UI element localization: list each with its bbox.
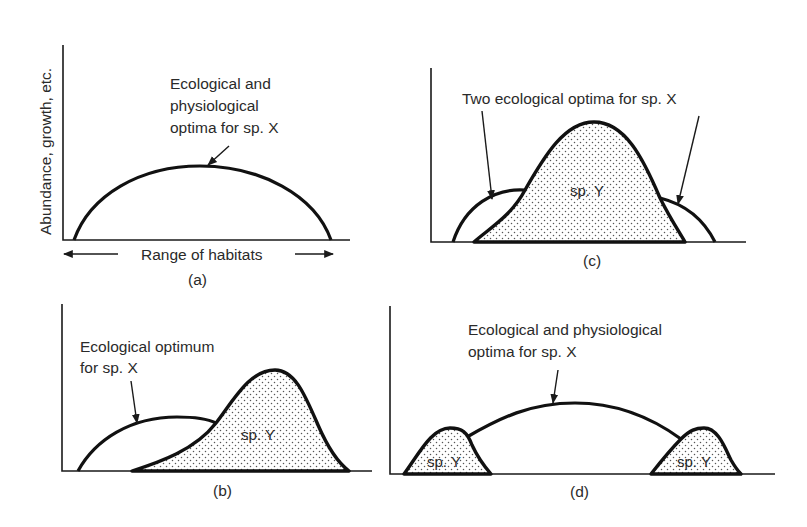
panel-b-pointer-arrow — [131, 381, 137, 423]
panel-c: sp. Y Two ecological optima for sp. X (c… — [431, 68, 746, 269]
panel-b-caption: (b) — [213, 482, 232, 499]
panel-d-annotation-line-2: optima for sp. X — [468, 343, 577, 360]
panel-d-pointer-arrow — [553, 370, 558, 403]
y-axis-label: Abundance, growth, etc. — [37, 68, 54, 235]
niche-diagram: Abundance, growth, etc. Ecological and p… — [0, 0, 807, 527]
panel-a-annotation-line-1: Ecological and — [170, 75, 271, 92]
panel-a-pointer-arrow — [208, 146, 229, 165]
panel-d-annotation-line-1: Ecological and physiological — [468, 321, 662, 338]
panel-d-species-y-label-left: sp. Y — [427, 453, 461, 470]
panel-d: sp. Y sp. Y Ecological and physiological… — [390, 306, 775, 500]
panel-d-species-x-curve — [467, 403, 681, 439]
panel-b-annotation-line-1: Ecological optimum — [80, 338, 214, 355]
panel-b-species-y-curve — [132, 370, 349, 471]
panel-b: sp. Y Ecological optimum for sp. X (b) — [62, 304, 372, 499]
panel-d-species-y-label-right: sp. Y — [677, 453, 711, 470]
panel-a-annotation-line-2: physiological — [170, 97, 259, 114]
panel-a-species-x-curve — [74, 166, 331, 240]
panel-c-pointer-arrow-right — [678, 116, 699, 204]
panel-c-annotation: Two ecological optima for sp. X — [462, 90, 677, 107]
x-axis-label: Range of habitats — [141, 246, 263, 263]
panel-d-caption: (d) — [570, 483, 589, 500]
panel-c-caption: (c) — [583, 252, 601, 269]
panel-a-caption: (a) — [188, 271, 207, 288]
panel-b-annotation-line-2: for sp. X — [80, 359, 138, 376]
panel-c-pointer-arrow-left — [482, 111, 492, 199]
panel-b-species-y-label: sp. Y — [241, 426, 275, 443]
panel-c-species-y-label: sp. Y — [570, 182, 604, 199]
panel-a-annotation-line-3: optima for sp. X — [170, 119, 279, 136]
panel-a: Abundance, growth, etc. Ecological and p… — [37, 45, 350, 288]
